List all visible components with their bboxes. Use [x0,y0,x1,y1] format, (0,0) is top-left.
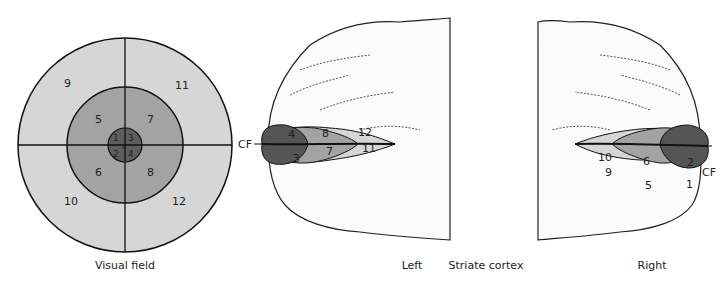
striate-cortex-caption: Striate cortex [449,259,524,272]
region-6: 6 [95,166,102,179]
left-region-12: 12 [358,126,372,139]
visual-field-diagram: × 1 2 3 4 5 6 7 8 9 10 11 12 Visual fiel… [18,38,232,272]
left-hemisphere: CF 4 3 8 7 12 11 Left [238,18,450,272]
fixation-mark: × [120,141,128,151]
region-2: 2 [113,149,119,159]
right-region-6: 6 [643,155,650,168]
region-10: 10 [64,195,78,208]
left-region-11: 11 [362,142,376,155]
left-region-4: 4 [288,128,295,141]
left-region-3: 3 [293,152,300,165]
left-caption: Left [402,259,423,272]
right-region-2: 2 [687,156,694,169]
region-9: 9 [64,77,71,90]
region-12: 12 [172,195,186,208]
region-5: 5 [95,113,102,126]
right-caption: Right [638,259,668,272]
region-8: 8 [147,166,154,179]
right-region-5: 5 [645,179,652,192]
visual-field-caption: Visual field [95,259,155,272]
region-7: 7 [147,113,154,126]
right-cf-label: CF [702,166,716,179]
right-region-1: 1 [686,178,693,191]
left-region-7: 7 [326,145,333,158]
right-hemisphere: CF 2 1 6 5 10 9 Right [538,21,716,273]
left-region-8: 8 [322,127,329,140]
region-1: 1 [113,133,119,143]
right-region-10: 10 [598,151,612,164]
left-cf-label: CF [238,138,252,151]
right-region-9: 9 [605,166,612,179]
region-3: 3 [128,133,134,143]
figure: × 1 2 3 4 5 6 7 8 9 10 11 12 Visual fiel… [0,0,724,282]
region-4: 4 [128,149,134,159]
region-11: 11 [175,79,189,92]
